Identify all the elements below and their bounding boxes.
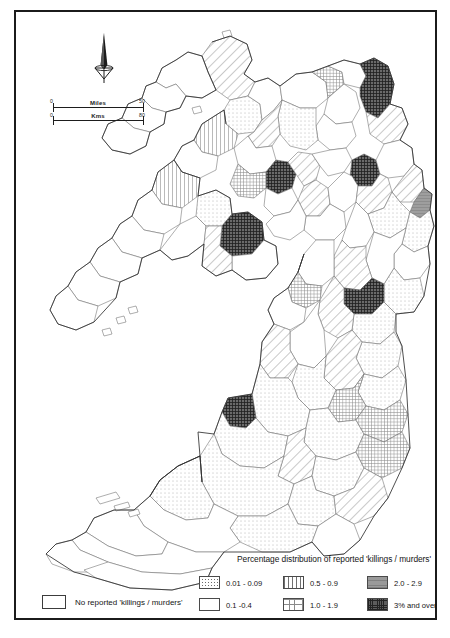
- legend-item-5[interactable]: 3% and over: [367, 598, 447, 612]
- legend-swatch-no-report: [42, 595, 66, 609]
- legend-label-1: 0.1 -0.4: [226, 601, 252, 610]
- legend-label-2: 0.5 - 0.9: [310, 579, 338, 588]
- legend-swatch-3: [283, 598, 304, 611]
- legend-label-no-report: No reported 'killings / murders': [75, 598, 183, 607]
- legend-item-0[interactable]: 0.01 - 0.09: [199, 576, 279, 590]
- legend-swatch-4: [367, 576, 388, 589]
- legend-label-0: 0.01 - 0.09: [226, 579, 262, 588]
- legend-item-no-report[interactable]: No reported 'killings / murders': [42, 595, 217, 610]
- legend-swatch-2: [283, 576, 304, 589]
- map-page: 0 50 0 80 Miles Kms Percentage distribut…: [0, 0, 450, 638]
- legend: Percentage distribution of reported 'kil…: [199, 554, 447, 620]
- legend-item-3[interactable]: 1.0 - 1.9: [283, 598, 363, 612]
- legend-row-bottom: 0.1 -0.4 1.0 - 1.9 3% and over: [199, 598, 447, 612]
- legend-label-3: 1.0 - 1.9: [310, 601, 338, 610]
- scale-bar: 0 50 0 80 Miles Kms: [49, 96, 147, 126]
- scale-line-miles: [53, 107, 143, 108]
- north-arrow: [89, 32, 119, 84]
- legend-row-top: 0.01 - 0.09 0.5 - 0.9 2.0 - 2.9: [199, 576, 447, 590]
- legend-label-5: 3% and over: [394, 601, 437, 610]
- map-frame: 0 50 0 80 Miles Kms Percentage distribut…: [14, 10, 437, 620]
- legend-item-4[interactable]: 2.0 - 2.9: [367, 576, 447, 590]
- legend-label-4: 2.0 - 2.9: [394, 579, 422, 588]
- scale-line-kms: [53, 120, 143, 121]
- legend-swatch-5: [367, 598, 388, 611]
- scale-unit-miles: Miles: [49, 100, 147, 106]
- legend-swatch-0: [199, 576, 220, 589]
- legend-title: Percentage distribution of reported 'kil…: [237, 554, 431, 564]
- legend-item-2[interactable]: 0.5 - 0.9: [283, 576, 363, 590]
- scale-unit-kms: Kms: [49, 113, 147, 119]
